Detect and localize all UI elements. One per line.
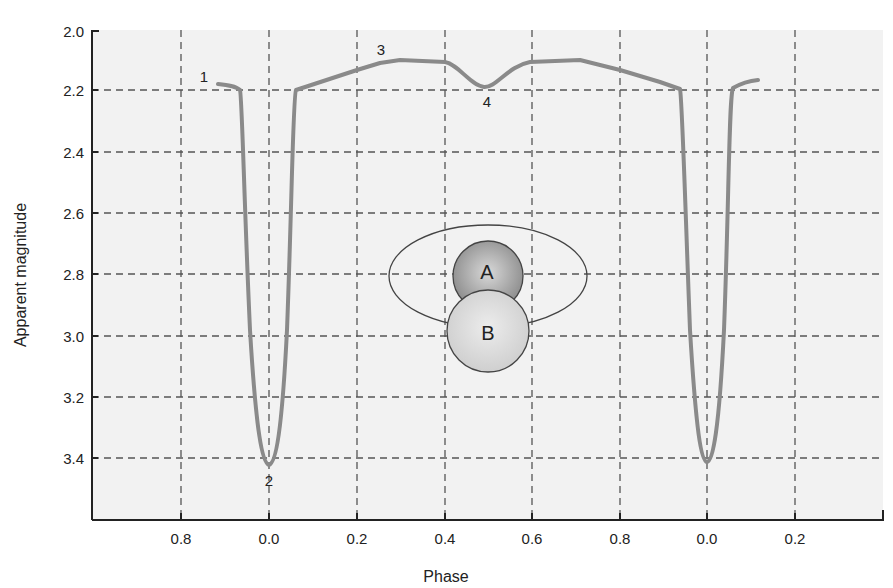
point-label-2: 2 [265, 472, 273, 489]
point-label-3: 3 [377, 41, 385, 58]
star-b-label: B [481, 322, 494, 344]
x-tick-label: 0.4 [435, 530, 456, 547]
x-tick-label: 0.0 [259, 530, 280, 547]
y-tick-label: 2.6 [63, 205, 84, 222]
y-tick-label: 2.8 [63, 266, 84, 283]
x-tick-labels: 0.8 0.0 0.2 0.4 0.6 0.8 0.0 0.2 [171, 530, 806, 547]
y-tick-labels: 2.0 2.2 2.4 2.6 2.8 3.0 3.2 3.4 [63, 23, 84, 467]
y-tick-label: 3.2 [63, 389, 84, 406]
chart-container: 2.0 2.2 2.4 2.6 2.8 3.0 3.2 3.4 0.8 0.0 … [0, 0, 893, 588]
x-axis-title: Phase [423, 568, 468, 585]
x-tick-label: 0.8 [171, 530, 192, 547]
x-tick-label: 0.6 [522, 530, 543, 547]
star-a-label: A [480, 261, 494, 283]
light-curve-chart: 2.0 2.2 2.4 2.6 2.8 3.0 3.2 3.4 0.8 0.0 … [0, 0, 893, 588]
y-tick-label: 3.4 [63, 450, 84, 467]
x-tick-label: 0.8 [610, 530, 631, 547]
point-label-4: 4 [483, 93, 491, 110]
y-tick-label: 2.4 [63, 144, 84, 161]
y-tick-label: 3.0 [63, 328, 84, 345]
y-axis-title: Apparent magnitude [12, 203, 29, 347]
point-label-1: 1 [200, 68, 208, 85]
y-tick-label: 2.0 [63, 23, 84, 40]
y-tick-label: 2.2 [63, 82, 84, 99]
x-tick-label: 0.2 [785, 530, 806, 547]
x-tick-label: 0.2 [347, 530, 368, 547]
x-tick-label: 0.0 [697, 530, 718, 547]
